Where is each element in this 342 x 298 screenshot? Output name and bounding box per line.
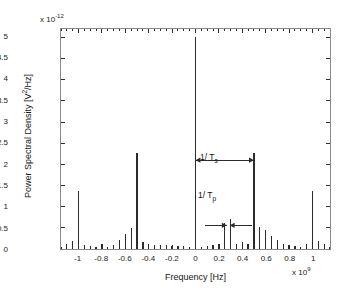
y-tick-label: 1: [0, 202, 8, 211]
y-tick-label: 4: [0, 74, 8, 83]
y-axis-title-sup: 2: [21, 90, 28, 94]
y-tick-label: 5: [0, 32, 8, 41]
tp-label-sub: p: [213, 195, 217, 202]
y-axis-title-post: /Hz]: [23, 74, 33, 90]
ts-label-sub: s: [215, 157, 218, 164]
y-axis-title: Power Spectral Density [V2/Hz]: [21, 21, 33, 251]
y-tick-label: 1.5: [0, 181, 8, 190]
annotation-label-ts: 1/ Ts: [200, 152, 218, 164]
y-exponent-prefix: x 10: [40, 15, 55, 24]
x-tick-label: 1: [298, 254, 328, 263]
y-tick-label: 2.5: [0, 138, 8, 147]
plot-area: [60, 28, 331, 250]
y-tick-label: 0: [0, 245, 8, 254]
y-tick-label: 2: [0, 160, 8, 169]
y-tick-label: 4.5: [0, 53, 8, 62]
y-tick-label: 3.5: [0, 96, 8, 105]
y-tick-label: 0.5: [0, 224, 8, 233]
y-axis-exponent: x 10-12: [40, 13, 64, 24]
y-tick-label: 3: [0, 117, 8, 126]
tp-label-text: 1/ T: [198, 190, 213, 200]
ts-label-text: 1/ T: [200, 152, 215, 162]
spectrum-plot: [61, 29, 330, 249]
psd-figure: x 10-12 x 109 00.511.522.533.544.55 -1-0…: [0, 0, 342, 298]
annotation-label-tp: 1/ Tp: [198, 190, 216, 202]
x-axis-title: Frequency [Hz]: [60, 272, 331, 282]
y-axis-title-pre: Power Spectral Density [V: [23, 94, 33, 199]
y-exponent-value: -12: [55, 13, 64, 19]
